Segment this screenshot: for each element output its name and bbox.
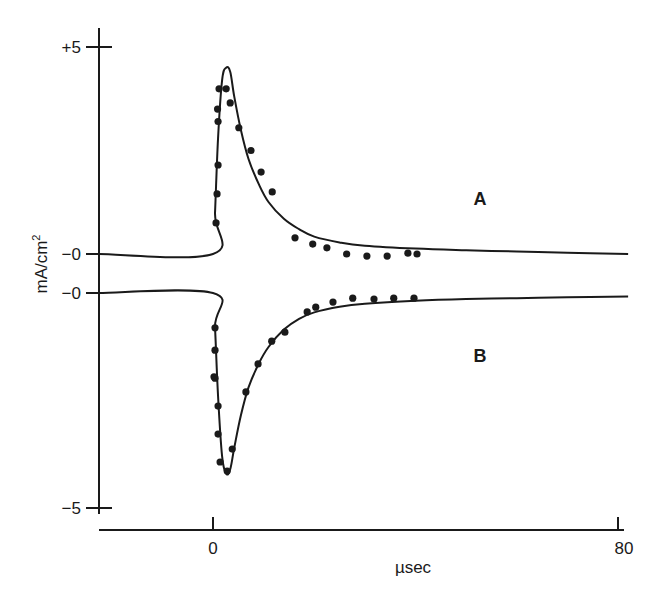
data-point [291, 234, 298, 241]
data-point [213, 190, 220, 197]
y-axis-title: mA/cm2 [30, 234, 51, 293]
data-point [216, 458, 223, 465]
y-tick-label-plus5: +5 [62, 38, 81, 57]
data-point [247, 147, 254, 154]
series-label-a: A [474, 189, 487, 209]
data-point [227, 99, 234, 106]
data-point [349, 295, 356, 302]
data-point [268, 338, 275, 345]
data-point [323, 244, 330, 251]
data-point [210, 373, 217, 380]
data-point [343, 250, 350, 257]
data-point [329, 298, 336, 305]
y-tick-label-zero-b: −0 [62, 284, 81, 303]
data-point [309, 240, 316, 247]
series-a-points [212, 85, 420, 259]
y-axis-title-main: mA/cm [32, 241, 51, 294]
data-point [384, 252, 391, 259]
data-point [214, 430, 221, 437]
chart-canvas: +5 −0 −0 −5 mA/cm2 0 80 µsec A B [0, 0, 656, 602]
series-b-curve [99, 290, 628, 474]
data-point [312, 304, 319, 311]
data-point [242, 388, 249, 395]
data-point [413, 250, 420, 257]
data-point [257, 168, 264, 175]
y-tick-label-zero-a: −0 [62, 245, 81, 264]
data-point [370, 295, 377, 302]
series-b-points [210, 295, 417, 475]
y-tick-label-minus5: −5 [62, 499, 81, 518]
data-point [214, 118, 221, 125]
data-point [363, 252, 370, 259]
series-a-curve [99, 67, 628, 257]
data-point [211, 324, 218, 331]
data-point [235, 124, 242, 131]
x-tick-label-80: 80 [615, 539, 634, 558]
data-point [404, 250, 411, 257]
data-point [214, 161, 221, 168]
data-point [304, 308, 311, 315]
x-axis-title: µsec [395, 558, 432, 577]
x-tick-label-zero: 0 [208, 539, 217, 558]
data-point [212, 219, 219, 226]
data-point [229, 445, 236, 452]
data-point [214, 106, 221, 113]
data-point [390, 295, 397, 302]
data-point [215, 85, 222, 92]
data-point [214, 402, 221, 409]
data-point [211, 347, 218, 354]
data-point [224, 467, 231, 474]
y-axis-title-superscript: 2 [30, 234, 42, 240]
series-label-b: B [474, 346, 487, 366]
data-point [410, 295, 417, 302]
data-point [223, 85, 230, 92]
data-point [269, 188, 276, 195]
data-point [254, 360, 261, 367]
data-point [281, 329, 288, 336]
